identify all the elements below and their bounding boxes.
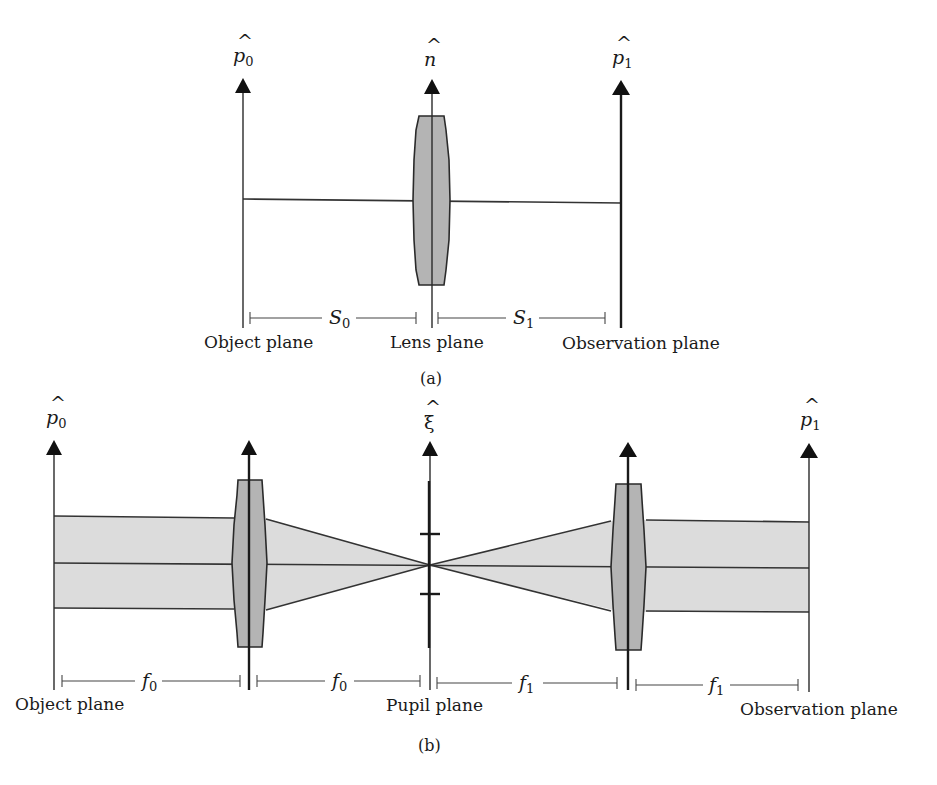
panel-a: p0 ^ n ^ p1 ^ S0 [204, 30, 720, 388]
distance-label-s1: S1 [513, 306, 534, 331]
arrow-up-icon [235, 78, 251, 93]
collimated-beam-right [644, 520, 809, 612]
object-plane-label: Object plane [15, 694, 124, 714]
arrow-up-icon [800, 443, 818, 458]
arrow-up-icon [422, 441, 438, 456]
hat-mark: ^ [804, 394, 820, 416]
arrow-up-icon [619, 442, 637, 457]
observation-plane-label: Observation plane [562, 333, 720, 353]
object-plane-axis [235, 78, 251, 328]
arrow-up-icon [46, 440, 62, 455]
arrow-up-icon [424, 79, 440, 94]
collimated-beam-left [54, 516, 236, 608]
distance-label-f0: f0 [140, 669, 157, 694]
lens-a [413, 79, 450, 328]
hat-mark: ^ [50, 392, 66, 414]
lens-2 [611, 442, 646, 690]
panel-a-caption: (a) [420, 369, 442, 388]
arrow-up-icon [612, 80, 630, 95]
hat-mark: ^ [237, 30, 253, 52]
panel-b-caption: (b) [418, 736, 441, 755]
hat-mark: ^ [426, 34, 442, 56]
object-plane-label: Object plane [204, 332, 313, 352]
lens-1 [232, 440, 267, 690]
arrow-up-icon [241, 440, 257, 455]
pupil-plane-label: Pupil plane [386, 695, 483, 715]
hat-mark: ^ [425, 396, 441, 418]
optics-figure: p0 ^ n ^ p1 ^ S0 [0, 0, 937, 785]
distance-label-s0: S0 [329, 306, 350, 331]
observation-plane-axis [612, 80, 630, 328]
hat-mark: ^ [616, 32, 632, 54]
lens-plane-label: Lens plane [390, 332, 484, 352]
distance-label-f0: f0 [330, 669, 347, 694]
panel-b: p0 ^ ξ ^ p1 [15, 392, 898, 755]
distance-label-f1: f1 [517, 671, 534, 696]
observation-plane-label: Observation plane [740, 699, 898, 719]
distance-label-f1: f1 [707, 673, 724, 698]
